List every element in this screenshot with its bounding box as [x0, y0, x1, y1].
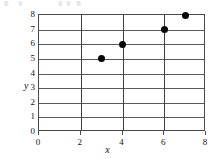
data-point — [98, 55, 105, 62]
y-axis-tick-label: 5 — [9, 53, 35, 62]
plot-area — [38, 14, 205, 131]
data-point — [182, 12, 189, 19]
gridline-horizontal — [39, 30, 204, 31]
data-point — [161, 26, 168, 33]
y-axis-tick-label: 7 — [9, 24, 35, 33]
y-axis-tick-label: 4 — [9, 68, 35, 77]
y-axis-tick-label: 1 — [9, 112, 35, 121]
x-axis-tick-mark — [80, 131, 81, 135]
x-axis-tick-label: 4 — [111, 138, 133, 147]
x-axis-tick-label: 6 — [152, 138, 174, 147]
gridline-horizontal — [39, 117, 204, 118]
x-axis-tick-mark — [163, 131, 164, 135]
x-axis-tick-mark — [122, 131, 123, 135]
x-axis-tick-label: 0 — [27, 138, 49, 147]
gridline-vertical — [81, 15, 82, 130]
y-axis-tick-label: 6 — [9, 39, 35, 48]
x-axis-tick-mark — [38, 131, 39, 135]
y-axis-tick-label: 3 — [9, 83, 35, 92]
x-axis-tick-label: 8 — [194, 138, 215, 147]
x-axis-tick-label: 2 — [69, 138, 91, 147]
y-axis-tick-label: 0 — [9, 127, 35, 136]
gridline-horizontal — [39, 103, 204, 104]
data-point — [119, 41, 126, 48]
gridline-vertical — [123, 15, 124, 130]
gridline-horizontal — [39, 88, 204, 89]
y-axis-tick-label: 8 — [9, 10, 35, 19]
x-axis-tick-mark — [205, 131, 206, 135]
gridline-horizontal — [39, 59, 204, 60]
scatter-plot-figure: y x 01234567802468 — [0, 0, 215, 159]
scan-artifact — [4, 1, 100, 6]
gridline-horizontal — [39, 74, 204, 75]
y-axis-tick-label: 2 — [9, 97, 35, 106]
